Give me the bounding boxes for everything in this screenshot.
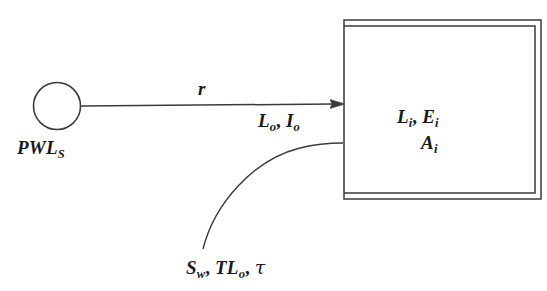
source-circle xyxy=(34,83,81,130)
diagram-root: PWLS r Lo, Io Li, Ei Ai Sw, TLo, τ xyxy=(0,0,547,291)
distance-label: r xyxy=(198,79,206,98)
outdoor-intensity-base: I xyxy=(286,110,294,131)
partition-separator-1: , xyxy=(205,257,215,278)
indoor-energy-subscript: i xyxy=(435,116,438,130)
source-label-subscript: S xyxy=(58,147,65,161)
indoor-quantities-label-line2: Ai xyxy=(421,133,437,152)
indoor-level-base: L xyxy=(397,106,409,127)
room-inner-rect xyxy=(344,26,535,193)
partition-area-base: S xyxy=(186,257,197,278)
outdoor-separator: , xyxy=(276,110,286,131)
propagation-arrow-line xyxy=(81,104,333,106)
distance-label-base: r xyxy=(198,78,206,99)
facade-transmission-curve-path xyxy=(203,143,343,249)
indoor-quantities-label-line1: Li, Ei xyxy=(397,107,439,126)
source-label-base: PWL xyxy=(17,137,58,158)
indoor-separator: , xyxy=(412,106,422,127)
indoor-level-subscript: i xyxy=(409,116,412,130)
diagram-canvas xyxy=(0,0,547,291)
outdoor-quantities-label: Lo, Io xyxy=(258,111,300,130)
indoor-absorption-subscript: i xyxy=(434,142,437,156)
transmission-loss-subscript: o xyxy=(239,267,245,281)
partition-separator-2: , xyxy=(245,257,255,278)
transmission-loss-base: TL xyxy=(215,257,239,278)
room-outer-rect xyxy=(344,20,541,199)
indoor-energy-base: E xyxy=(422,106,435,127)
outdoor-intensity-subscript: o xyxy=(294,120,300,134)
partition-area-subscript: w xyxy=(197,267,205,281)
source-power-level-label: PWLS xyxy=(17,138,65,157)
outdoor-level-subscript: o xyxy=(270,120,276,134)
indoor-absorption-base: A xyxy=(421,132,434,153)
propagation-arrow-head xyxy=(330,100,345,109)
transmission-coefficient-tau: τ xyxy=(255,256,266,278)
outdoor-level-base: L xyxy=(258,110,270,131)
partition-quantities-label: Sw, TLo, τ xyxy=(186,258,266,277)
